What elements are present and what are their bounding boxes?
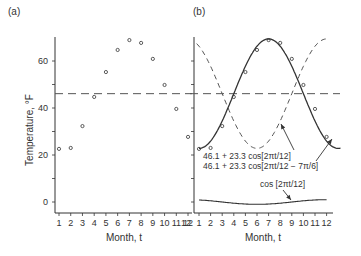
x-tick-label: 2 [208, 218, 213, 228]
data-point [221, 124, 224, 127]
data-point [81, 124, 84, 127]
data-point [93, 95, 96, 98]
x-tick-label: 8 [278, 218, 283, 228]
x-axis-label-b: Month, t [245, 232, 281, 243]
y-tick-label: 40 [38, 103, 48, 113]
panel-a: 0204060123456789101112 [38, 37, 193, 228]
data-point [140, 41, 143, 44]
x-tick-label: 10 [298, 218, 308, 228]
figure: 0204060123456789101112 12123456789101112… [0, 0, 361, 256]
data-point [116, 48, 119, 51]
data-point [186, 135, 189, 138]
x-tick-label: 1 [56, 218, 61, 228]
x-tick-label: 2 [68, 218, 73, 228]
x-tick-label: 12 [322, 218, 332, 228]
x-tick-label: 3 [220, 218, 225, 228]
data-point [290, 57, 293, 60]
x-tick-label: 7 [127, 218, 132, 228]
y-tick-label: 60 [38, 56, 48, 66]
data-point [163, 83, 166, 86]
data-point [175, 107, 178, 110]
x-tick-label: 11 [310, 218, 319, 228]
data-point [325, 135, 328, 138]
data-point [57, 147, 60, 150]
y-tick-label: 0 [43, 197, 48, 207]
x-tick-label: 1 [196, 218, 201, 228]
x-tick-label: 5 [243, 218, 248, 228]
x-tick-label: 12 [181, 218, 191, 228]
data-point [69, 146, 72, 149]
x-tick-label: 11 [172, 218, 181, 228]
x-tick-label: 3 [80, 218, 85, 228]
data-point [302, 83, 305, 86]
annotation-shifted-cos-curve: 46.1 + 23.3 cos[2πt/12 − 7π/6] [203, 161, 318, 171]
x-tick-label: 10 [160, 218, 170, 228]
panel-b-label: (b) [193, 6, 205, 17]
data-point [255, 48, 258, 51]
y-tick-label: 20 [38, 150, 48, 160]
x-tick-label: 9 [150, 218, 155, 228]
data-point [104, 70, 107, 73]
y-axis-label: Temperature, °F [24, 94, 35, 166]
x-tick-label: 7 [266, 218, 271, 228]
unit-cos-curve [199, 200, 327, 205]
data-point [313, 107, 316, 110]
x-tick-label: 5 [103, 218, 108, 228]
annotation-cos-curve: 46.1 + 23.3 cos[2πt/12] [203, 151, 291, 161]
data-point [209, 146, 212, 149]
x-tick-label: 4 [92, 218, 97, 228]
x-tick-label: 4 [231, 218, 236, 228]
panel-b: 12123456789101112 [181, 37, 341, 228]
data-point [128, 38, 131, 41]
data-point [151, 57, 154, 60]
x-tick-label: 6 [115, 218, 120, 228]
data-point [244, 70, 247, 73]
x-tick-label: 6 [254, 218, 259, 228]
annotation-unit-cos-curve: cos [2πt/12] [260, 179, 305, 189]
data-point [279, 41, 282, 44]
panel-a-label: (a) [8, 6, 20, 17]
x-axis-label-a: Month, t [106, 232, 142, 243]
x-tick-label: 8 [139, 218, 144, 228]
x-tick-label: 9 [289, 218, 294, 228]
